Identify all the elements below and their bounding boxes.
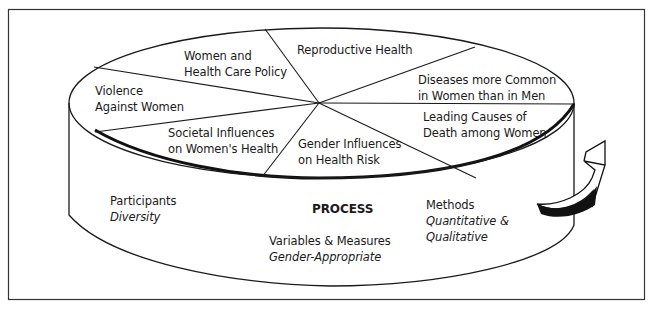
- segment-label-line: Societal Influences: [168, 125, 278, 141]
- segment-label-line: Death among Women: [423, 125, 547, 141]
- segment-label-line: Diseases more Common: [418, 72, 556, 88]
- variables-label: Variables & Measures Gender-Appropriate: [269, 233, 391, 265]
- segment-societal-influences: Societal Influences on Women's Health: [168, 125, 278, 157]
- segment-label-line: on Health Risk: [298, 152, 401, 168]
- segment-gender-influences: Gender Influences on Health Risk: [298, 136, 401, 168]
- methods-label: Methods Quantitative & Qualitative: [426, 197, 509, 245]
- segment-label-line: on Women's Health: [168, 141, 278, 157]
- participants-value: Diversity: [110, 209, 176, 225]
- methods-value-line: Quantitative &: [426, 213, 509, 229]
- segment-violence-against-women: Violence Against Women: [95, 83, 184, 115]
- methods-title: Methods: [426, 197, 509, 213]
- segment-label-line: Leading Causes of: [423, 109, 547, 125]
- participants-label: Participants Diversity: [110, 193, 176, 225]
- segment-label-line: Health Care Policy: [184, 64, 287, 80]
- participants-title: Participants: [110, 193, 176, 209]
- segment-label-line: in Women than in Men: [418, 88, 556, 104]
- methods-value-line: Qualitative: [426, 229, 509, 245]
- variables-title: Variables & Measures: [269, 233, 391, 249]
- variables-value: Gender-Appropriate: [269, 249, 391, 265]
- segment-label-line: Gender Influences: [298, 136, 401, 152]
- curved-rotation-arrow-icon: [537, 141, 616, 217]
- segment-label-line: Women and: [184, 48, 287, 64]
- segment-diseases-more-common: Diseases more Common in Women than in Me…: [418, 72, 556, 104]
- segment-reproductive-health: Reproductive Health: [297, 42, 412, 58]
- segment-label-line: Violence: [95, 83, 184, 99]
- segment-label-line: Reproductive Health: [297, 42, 412, 58]
- segment-label-line: Against Women: [95, 99, 184, 115]
- process-label: PROCESS: [312, 201, 373, 217]
- segment-women-health-care-policy: Women and Health Care Policy: [184, 48, 287, 80]
- segment-leading-causes-death: Leading Causes of Death among Women: [423, 109, 547, 141]
